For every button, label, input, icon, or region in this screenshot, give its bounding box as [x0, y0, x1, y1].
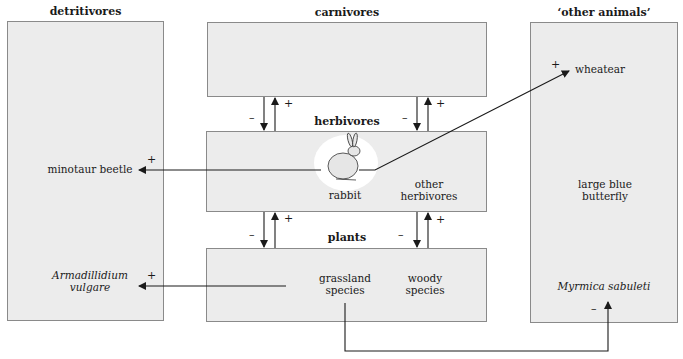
- label-butterfly-line2: butterfly: [560, 190, 650, 202]
- sign-minus: –: [249, 112, 255, 123]
- rabbit-icon: [328, 133, 360, 180]
- label-other-herbivores-line1: other: [393, 178, 465, 190]
- label-myrmica-sabuleti: Myrmica sabuleti: [548, 280, 660, 292]
- label-grassland-line1: grassland: [310, 272, 380, 284]
- sign-minus: –: [249, 229, 255, 240]
- label-woody-line1: woody: [397, 272, 453, 284]
- label-grassland-line2: species: [310, 284, 380, 296]
- label-minotaur-beetle: minotaur beetle: [40, 163, 140, 175]
- label-butterfly-line1: large blue: [560, 178, 650, 190]
- sign-plus: +: [551, 59, 560, 70]
- sign-plus: +: [147, 270, 156, 281]
- sign-plus: +: [436, 214, 445, 225]
- sign-plus: +: [147, 154, 156, 165]
- sign-minus: –: [398, 229, 404, 240]
- sign-minus: –: [591, 303, 597, 314]
- sign-plus: +: [284, 213, 293, 224]
- label-armadillidium-line1: Armadillidium: [40, 269, 140, 281]
- label-grassland-species: grassland species: [310, 272, 380, 296]
- sign-plus: +: [436, 98, 445, 109]
- label-armadillidium: Armadillidium vulgare: [40, 269, 140, 293]
- label-woody-line2: species: [397, 284, 453, 296]
- label-rabbit: rabbit: [320, 189, 370, 201]
- label-large-blue-butterfly: large blue butterfly: [560, 178, 650, 202]
- sign-plus: +: [284, 98, 293, 109]
- label-wheatear: wheatear: [575, 63, 635, 75]
- label-woody-species: woody species: [397, 272, 453, 296]
- label-other-herbivores-line2: herbivores: [393, 190, 465, 202]
- sign-minus: –: [402, 112, 408, 123]
- label-other-herbivores: other herbivores: [393, 178, 465, 202]
- label-armadillidium-line2: vulgare: [40, 281, 140, 293]
